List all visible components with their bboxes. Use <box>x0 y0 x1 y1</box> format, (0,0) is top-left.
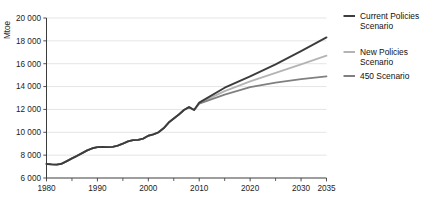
legend-label: Current Policies <box>360 11 419 21</box>
y-tick-label: 20 000 <box>16 14 41 23</box>
series-line <box>47 56 327 165</box>
y-axis-title: Mtoe <box>3 20 12 39</box>
y-axis: 6 0008 00010 00012 00014 00016 00018 000… <box>16 14 47 183</box>
x-tick-label: 2010 <box>190 184 209 193</box>
y-tick-label: 10 000 <box>16 128 41 137</box>
legend-label: New Policies <box>360 47 408 57</box>
chart-legend: Current PoliciesScenarioNew PoliciesScen… <box>344 11 420 81</box>
gridlines <box>47 18 327 155</box>
legend-label-line2: Scenario <box>360 57 393 67</box>
y-tick-label: 12 000 <box>16 105 41 114</box>
chart-container: 6 0008 00010 00012 00014 00016 00018 000… <box>0 0 429 211</box>
x-tick-label: 2035 <box>317 184 336 193</box>
y-axis-title-label: Mtoe <box>3 20 12 39</box>
x-tick-label: 1990 <box>88 184 107 193</box>
y-tick-label: 14 000 <box>16 82 41 91</box>
x-tick-label: 2030 <box>292 184 311 193</box>
x-tick-label: 2000 <box>139 184 158 193</box>
y-tick-label: 6 000 <box>21 174 42 183</box>
data-series-group <box>47 37 327 164</box>
x-axis: 1980199020002010202020302035 <box>37 178 336 193</box>
legend-label: 450 Scenario <box>360 71 410 81</box>
y-tick-label: 16 000 <box>16 60 41 69</box>
legend-label-line2: Scenario <box>360 21 393 31</box>
series-line <box>47 76 327 164</box>
line-chart: 6 0008 00010 00012 00014 00016 00018 000… <box>0 0 429 211</box>
x-tick-label: 1980 <box>37 184 56 193</box>
x-tick-label: 2020 <box>241 184 260 193</box>
y-tick-label: 18 000 <box>16 37 41 46</box>
y-tick-label: 8 000 <box>21 151 42 160</box>
series-line <box>47 37 327 164</box>
